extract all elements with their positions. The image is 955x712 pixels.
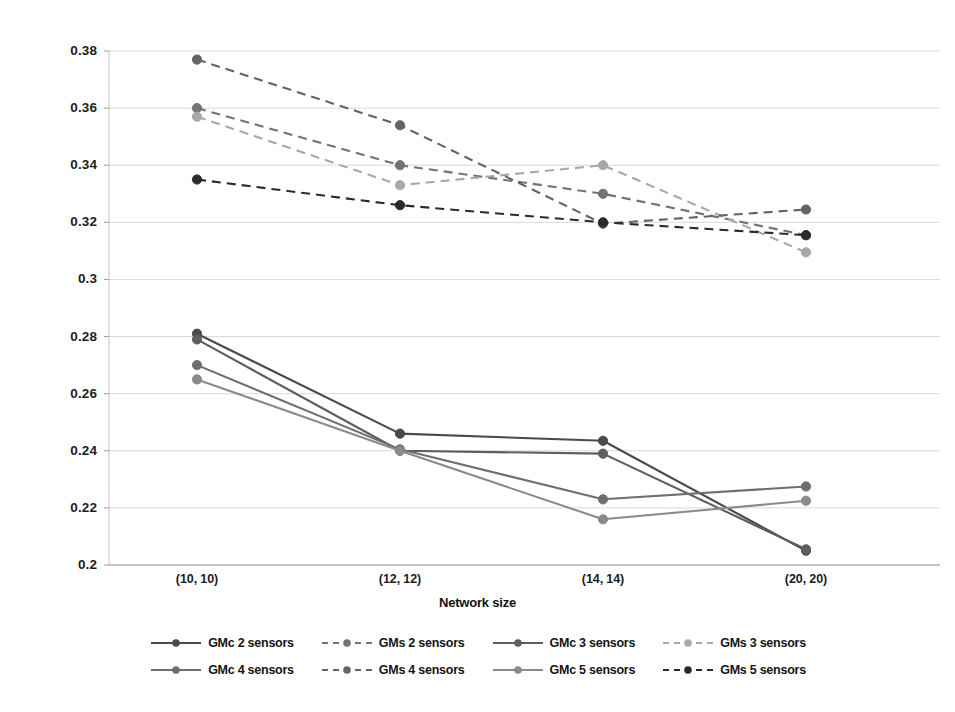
series-line xyxy=(197,365,806,499)
series-line xyxy=(197,334,806,551)
y-axis-tick-label: 0.24 xyxy=(39,444,97,458)
data-point-marker xyxy=(801,231,810,240)
x-axis-tick-label: (20, 20) xyxy=(785,572,827,586)
data-point-marker xyxy=(598,436,607,445)
data-point-marker xyxy=(395,201,404,210)
legend-swatch-icon xyxy=(149,664,203,676)
legend-label: GMs 5 sensors xyxy=(720,663,806,677)
chart-legend: GMc 2 sensorsGMs 2 sensorsGMc 3 sensorsG… xyxy=(0,632,955,694)
legend-item[interactable]: GMc 3 sensors xyxy=(491,636,636,650)
line-chart: 0.20.220.240.260.280.30.320.340.360.38 (… xyxy=(0,0,955,712)
data-point-marker xyxy=(395,121,404,130)
legend-swatch-icon xyxy=(661,637,715,649)
legend-label: GMs 3 sensors xyxy=(720,636,806,650)
data-point-marker xyxy=(192,335,201,344)
series-line xyxy=(197,60,806,224)
y-axis-tick-label: 0.34 xyxy=(39,158,97,172)
data-point-marker xyxy=(598,218,607,227)
data-point-marker xyxy=(801,496,810,505)
legend-label: GMs 2 sensors xyxy=(379,636,465,650)
legend-swatch-icon xyxy=(320,637,374,649)
x-axis-tick-labels: (10, 10)(12, 12)(14, 14)(20, 20) xyxy=(0,572,955,596)
data-point-marker xyxy=(395,181,404,190)
series-line xyxy=(197,379,806,519)
x-axis-tick-label: (10, 10) xyxy=(176,572,218,586)
data-point-marker xyxy=(395,429,404,438)
legend-item[interactable]: GMc 4 sensors xyxy=(149,663,294,677)
x-axis-title: Network size xyxy=(0,595,955,610)
data-point-marker xyxy=(801,482,810,491)
legend-label: GMc 2 sensors xyxy=(208,636,294,650)
y-axis-tick-labels: 0.20.220.240.260.280.30.320.340.360.38 xyxy=(39,0,97,600)
x-axis-tick-label: (14, 14) xyxy=(582,572,624,586)
legend-item[interactable]: GMs 3 sensors xyxy=(661,636,806,650)
plot-svg xyxy=(0,0,955,600)
legend-swatch-icon xyxy=(491,637,545,649)
legend-item[interactable]: GMc 5 sensors xyxy=(491,663,636,677)
legend-row: GMc 4 sensorsGMs 4 sensorsGMc 5 sensorsG… xyxy=(0,663,955,677)
data-point-marker xyxy=(598,515,607,524)
series-line xyxy=(197,180,806,236)
data-point-marker xyxy=(395,161,404,170)
legend-item[interactable]: GMc 2 sensors xyxy=(149,636,294,650)
data-point-marker xyxy=(598,161,607,170)
y-axis-tick-label: 0.28 xyxy=(39,330,97,344)
data-point-marker xyxy=(192,375,201,384)
data-point-marker xyxy=(192,361,201,370)
series-line xyxy=(197,108,806,235)
data-point-marker xyxy=(192,55,201,64)
legend-label: GMs 4 sensors xyxy=(379,663,465,677)
data-point-marker xyxy=(598,189,607,198)
legend-label: GMc 3 sensors xyxy=(550,636,636,650)
series-line xyxy=(197,339,806,549)
legend-item[interactable]: GMs 2 sensors xyxy=(320,636,465,650)
legend-swatch-icon xyxy=(491,664,545,676)
y-axis-tick-label: 0.3 xyxy=(39,272,97,286)
data-point-marker xyxy=(192,112,201,121)
data-point-marker xyxy=(192,104,201,113)
legend-item[interactable]: GMs 5 sensors xyxy=(661,663,806,677)
data-point-marker xyxy=(395,446,404,455)
legend-item[interactable]: GMs 4 sensors xyxy=(320,663,465,677)
data-point-marker xyxy=(801,545,810,554)
series-line xyxy=(197,117,806,253)
y-axis-tick-label: 0.22 xyxy=(39,501,97,515)
x-axis-tick-label: (12, 12) xyxy=(379,572,421,586)
y-axis-tick-label: 0.2 xyxy=(39,558,97,572)
data-point-marker xyxy=(801,248,810,257)
legend-label: GMc 4 sensors xyxy=(208,663,294,677)
data-point-marker xyxy=(598,495,607,504)
legend-swatch-icon xyxy=(149,637,203,649)
y-axis-tick-label: 0.32 xyxy=(39,215,97,229)
data-point-marker xyxy=(598,449,607,458)
y-axis-tick-label: 0.38 xyxy=(39,44,97,58)
plot-area xyxy=(0,0,955,600)
legend-swatch-icon xyxy=(320,664,374,676)
data-point-marker xyxy=(801,205,810,214)
legend-row: GMc 2 sensorsGMs 2 sensorsGMc 3 sensorsG… xyxy=(0,636,955,650)
y-axis-tick-label: 0.26 xyxy=(39,387,97,401)
legend-swatch-icon xyxy=(661,664,715,676)
legend-label: GMc 5 sensors xyxy=(550,663,636,677)
data-point-marker xyxy=(192,175,201,184)
y-axis-tick-label: 0.36 xyxy=(39,101,97,115)
